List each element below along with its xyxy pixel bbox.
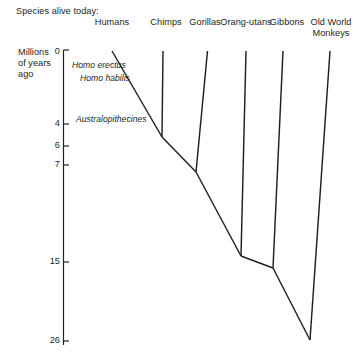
branch-orang-utans	[241, 51, 246, 256]
branch-gorillas	[196, 51, 208, 172]
branch-old-world-monkeys	[310, 51, 330, 340]
tree-graphic	[0, 0, 361, 360]
branch-gibbons	[273, 51, 283, 268]
branch-human-chimp-stem	[162, 137, 196, 172]
branch-catarrhine-stem	[273, 268, 310, 340]
branch-great-ape-stem	[196, 172, 241, 256]
branch-humans	[112, 51, 162, 137]
branch-ape-stem	[241, 256, 273, 268]
phylogenetic-tree-diagram: Species alive today: Millions of years a…	[0, 0, 361, 360]
branch-chimps	[162, 51, 163, 137]
